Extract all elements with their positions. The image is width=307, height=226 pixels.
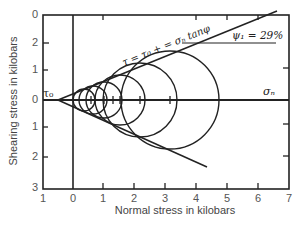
x-tick-label: 2 xyxy=(127,192,141,204)
y-axis-title: Shearing stress in kilobars xyxy=(7,26,19,176)
y-tick-label: 2 xyxy=(24,36,38,48)
x-tick-label: 1 xyxy=(96,192,110,204)
y-tick-label: 0 xyxy=(24,8,38,20)
x-tick-label: 0 xyxy=(66,192,80,204)
x-tick-label: 1 xyxy=(36,192,50,204)
y-tick-label: 1 xyxy=(24,120,38,132)
tau0-label: τ₀ xyxy=(43,87,54,100)
sigma-n-label: σₙ xyxy=(263,85,275,98)
x-tick-label: 4 xyxy=(189,192,203,204)
y-tick-label: 1 xyxy=(24,63,38,75)
x-tick-label: 5 xyxy=(220,192,234,204)
psi-label: ψ₁ = 29% xyxy=(232,29,283,41)
envelope-equation: τ = τ₀ + = σₙ tanφ xyxy=(121,23,212,68)
y-tick-label: 0 xyxy=(24,93,38,105)
y-tick-label: 2 xyxy=(24,150,38,162)
x-tick-label: 7 xyxy=(282,192,296,204)
x-tick-label: 3 xyxy=(158,192,172,204)
x-tick-label: 6 xyxy=(251,192,265,204)
x-axis-title: Normal stress in kilobars xyxy=(0,204,307,216)
